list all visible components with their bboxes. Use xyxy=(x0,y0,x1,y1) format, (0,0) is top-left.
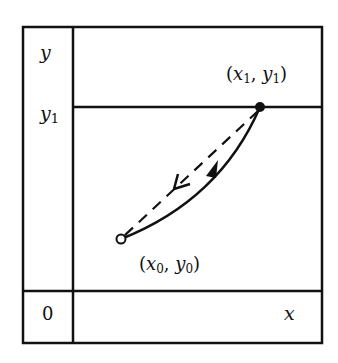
forward-arrow-icon xyxy=(206,160,218,178)
start-point-marker xyxy=(117,235,126,244)
start-point-label: (x0, y0) xyxy=(139,253,200,276)
y-axis-label: y xyxy=(39,41,51,63)
end-point-marker xyxy=(255,102,265,112)
return-path xyxy=(124,111,258,236)
origin-label: 0 xyxy=(42,303,53,324)
y1-label: y1 xyxy=(39,102,59,126)
end-point-label: (x1, y1) xyxy=(226,63,287,86)
phase-diagram: y y1 (x1, y1) (x0, y0) 0 x xyxy=(0,0,338,363)
x-axis-label: x xyxy=(284,302,295,324)
